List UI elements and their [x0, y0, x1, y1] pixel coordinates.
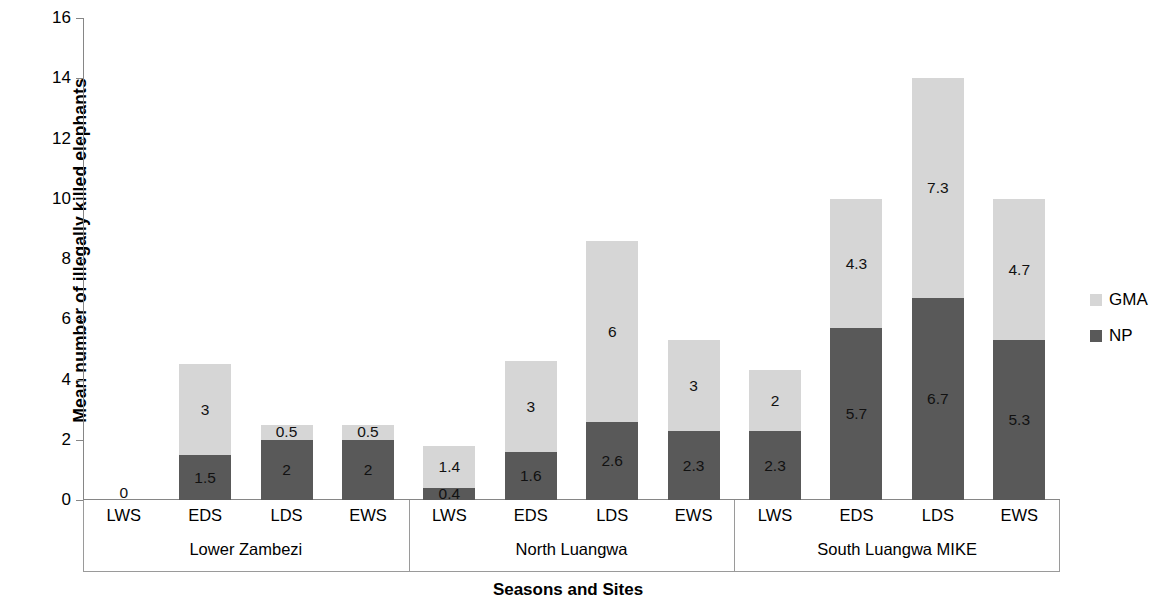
bar-north-luangwa-lds: 62.6 — [586, 241, 638, 500]
x-axis-title-text: Seasons and Sites — [493, 580, 643, 600]
bar-north-luangwa-ews: 32.3 — [668, 340, 720, 500]
y-tick-mark — [76, 259, 83, 260]
group-separator — [734, 500, 735, 572]
season-label-lws: LWS — [758, 506, 793, 525]
bar-segment-np: 1.5 — [179, 455, 231, 500]
y-tick-mark — [76, 139, 83, 140]
bar-north-luangwa-lws: 1.40.4 — [423, 446, 475, 500]
bar-segment-gma: 3 — [179, 364, 231, 454]
y-tick-mark — [76, 440, 83, 441]
bar-segment-gma: 4.3 — [830, 199, 882, 329]
bar-value-label-gma: 2 — [771, 393, 780, 409]
bar-value-label-np: 1.5 — [194, 470, 216, 486]
bar-value-label-gma: 7.3 — [927, 180, 949, 196]
site-label-lower-zambezi: Lower Zambezi — [189, 540, 302, 559]
bar-value-label-np: 5.7 — [846, 406, 868, 422]
y-tick-label: 10 — [52, 189, 71, 209]
y-tick-mark — [76, 78, 83, 79]
bar-value-label-np: 5.3 — [1009, 412, 1031, 428]
bar-value-label-np: 6.7 — [927, 391, 949, 407]
bar-segment-np: 5.3 — [993, 340, 1045, 500]
bar-segment-gma: 4.7 — [993, 199, 1045, 341]
y-tick-label: 16 — [52, 8, 71, 28]
bar-segment-gma: 3 — [668, 340, 720, 430]
bar-segment-np: 2 — [261, 440, 313, 500]
season-label-lds: LDS — [270, 506, 302, 525]
bar-segment-gma: 2 — [749, 370, 801, 430]
category-band-border — [83, 500, 1060, 572]
bar-value-label-gma: 3 — [689, 378, 698, 394]
y-tick-label: 14 — [52, 68, 71, 88]
y-tick-mark — [76, 18, 83, 19]
season-label-eds: EDS — [188, 506, 222, 525]
bar-south-luangwa-mike-lds: 7.36.7 — [912, 78, 964, 500]
bar-south-luangwa-mike-lws: 22.3 — [749, 370, 801, 500]
bar-value-label-np: 2.3 — [764, 458, 786, 474]
bar-segment-gma: 0.5 — [261, 425, 313, 440]
plot-area: 0246810121416 031.50.520.521.40.431.662.… — [83, 18, 1060, 500]
bar-segment-gma: 7.3 — [912, 78, 964, 298]
bar-segment-np: 6.7 — [912, 298, 964, 500]
bar-value-label-gma: 4.7 — [1009, 262, 1031, 278]
bar-segment-np: 0.4 — [423, 488, 475, 500]
season-label-lds: LDS — [922, 506, 954, 525]
legend-item-np: NP — [1090, 318, 1166, 354]
bar-value-label-np: 2 — [364, 462, 373, 478]
bar-value-label-gma: 6 — [608, 324, 617, 340]
bar-value-label-np: 2.6 — [601, 453, 623, 469]
site-label-south-luangwa-mike: South Luangwa MIKE — [817, 540, 977, 559]
legend-label-np: NP — [1109, 326, 1133, 346]
bar-lower-zambezi-ews: 0.52 — [342, 425, 394, 500]
bar-value-label-gma: 0.5 — [357, 424, 379, 440]
x-axis-title: Seasons and Sites — [0, 580, 1166, 600]
bar-segment-np: 1.6 — [505, 452, 557, 500]
bar-value-label-np: 2 — [282, 462, 291, 478]
y-tick-mark — [76, 199, 83, 200]
bar-segment-np: 2 — [342, 440, 394, 500]
bar-value-label-gma: 4.3 — [846, 256, 868, 272]
bar-lower-zambezi-eds: 31.5 — [179, 364, 231, 500]
y-tick-label: 4 — [62, 370, 71, 390]
legend-swatch-gma-icon — [1090, 294, 1102, 306]
legend-swatch-np-icon — [1090, 330, 1102, 342]
legend-label-gma: GMA — [1109, 290, 1148, 310]
bar-value-label-np: 2.3 — [683, 458, 705, 474]
season-label-lds: LDS — [596, 506, 628, 525]
bar-value-label-gma: 3 — [201, 402, 210, 418]
bar-segment-gma: 1.4 — [423, 446, 475, 488]
y-axis-line — [83, 18, 84, 500]
bar-lower-zambezi-lds: 0.52 — [261, 425, 313, 500]
bar-segment-gma: 0.5 — [342, 425, 394, 440]
season-label-eds: EDS — [839, 506, 873, 525]
bar-segment-gma: 3 — [505, 361, 557, 451]
bar-segment-np: 2.6 — [586, 422, 638, 500]
bar-value-label-np: 1.6 — [520, 468, 542, 484]
bar-segment-gma: 6 — [586, 241, 638, 422]
chart-legend: GMA NP — [1090, 282, 1166, 354]
bar-value-label-gma: 0.5 — [276, 424, 298, 440]
bar-segment-np: 2.3 — [749, 431, 801, 500]
y-tick-mark — [76, 380, 83, 381]
bar-value-label-gma: 1.4 — [439, 459, 461, 475]
season-label-ews: EWS — [349, 506, 387, 525]
y-tick-label: 2 — [62, 430, 71, 450]
y-tick-mark — [76, 500, 83, 501]
group-separator — [409, 500, 410, 572]
site-label-north-luangwa: North Luangwa — [516, 540, 628, 559]
bar-segment-np: 2.3 — [668, 431, 720, 500]
y-tick-label: 0 — [62, 490, 71, 510]
bar-segment-np: 5.7 — [830, 328, 882, 500]
season-label-lws: LWS — [106, 506, 141, 525]
bar-value-label-np: 0.4 — [439, 486, 461, 502]
bar-value-label-gma: 3 — [526, 399, 535, 415]
season-label-eds: EDS — [514, 506, 548, 525]
y-tick-label: 6 — [62, 309, 71, 329]
stacked-bar-chart: Mean number of illegally killed elephant… — [0, 0, 1166, 609]
bar-north-luangwa-eds: 31.6 — [505, 361, 557, 500]
bar-south-luangwa-mike-ews: 4.75.3 — [993, 199, 1045, 500]
season-label-ews: EWS — [675, 506, 713, 525]
season-label-lws: LWS — [432, 506, 467, 525]
season-label-ews: EWS — [1000, 506, 1038, 525]
y-tick-mark — [76, 319, 83, 320]
legend-item-gma: GMA — [1090, 282, 1166, 318]
